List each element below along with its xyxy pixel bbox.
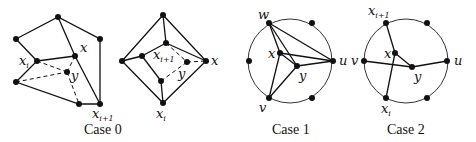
case2-graph: xi+1 v x y u xi [351,3,462,118]
label-x: x [211,53,219,68]
label-u: u [454,53,462,68]
caption-case2: Case 2 [387,122,425,137]
label-y: y [413,69,422,84]
svg-text:xi: xi [156,106,166,123]
label-y: y [70,68,79,83]
svg-text:xi+1: xi+1 [153,47,175,64]
label-w: w [258,7,269,22]
label-v: v [259,100,267,115]
svg-text:xi+1: xi+1 [92,106,114,123]
label-x: x [268,46,276,61]
label-u: u [339,53,347,68]
label-y: y [298,68,307,83]
label-v: v [351,53,359,68]
label-y: y [177,66,186,81]
svg-text:xi: xi [19,53,29,70]
svg-text:xi+1: xi+1 [368,3,390,20]
caption-case1: Case 1 [272,122,310,137]
svg-text:xi: xi [381,101,391,118]
case1-graph: w x y u v [246,7,347,115]
case0-right-graph: xi+1 x y xi [119,12,219,123]
label-x: x [80,40,88,55]
caption-case0: Case 0 [84,122,122,137]
diagram-figure: xi x y xi+1 xi+1 x y xi Case 0 [0,0,476,142]
case0-left-graph: xi x y xi+1 [13,14,114,123]
label-x: x [384,46,392,61]
